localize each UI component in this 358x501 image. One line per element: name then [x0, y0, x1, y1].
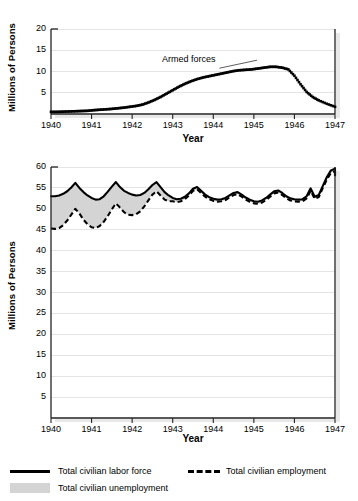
x-axis-label-bottom: Year — [143, 433, 243, 444]
y-tick-bottom-55: 55 — [20, 182, 46, 192]
x-axis-label-top: Year — [143, 133, 243, 144]
plot-area-labor-force — [0, 150, 358, 450]
x-tick-top-1940: 1940 — [32, 120, 70, 130]
legend-swatch-solid-line — [10, 470, 50, 473]
legend-item-labor-force: Total civilian labor force — [8, 464, 188, 479]
y-tick-top-20: 20 — [20, 23, 46, 33]
x-tick-top-1945: 1945 — [235, 120, 273, 130]
chart-armed-forces: Millions of Persons Armed forces Year 51… — [0, 0, 358, 150]
y-tick-bottom-45: 45 — [20, 224, 46, 234]
y-tick-bottom-25: 25 — [20, 307, 46, 317]
figure-root: Millions of Persons Armed forces Year 51… — [0, 0, 358, 501]
legend: Total civilian labor force Total civilia… — [8, 464, 356, 498]
x-tick-bottom-1947: 1947 — [316, 424, 354, 434]
legend-swatch-dashed-line — [188, 470, 220, 473]
legend-label-unemployment: Total civilian unemployment — [58, 483, 168, 493]
y-tick-bottom-50: 50 — [20, 203, 46, 213]
x-tick-bottom-1944: 1944 — [194, 424, 232, 434]
x-tick-bottom-1941: 1941 — [73, 424, 111, 434]
y-tick-top-5: 5 — [20, 87, 46, 97]
y-tick-bottom-5: 5 — [20, 391, 46, 401]
x-tick-bottom-1946: 1946 — [275, 424, 313, 434]
x-tick-bottom-1945: 1945 — [235, 424, 273, 434]
annotation-armed-forces: Armed forces — [162, 54, 216, 64]
chart-labor-force: Millions of Persons Year 510152025303540… — [0, 150, 358, 450]
x-tick-bottom-1943: 1943 — [154, 424, 192, 434]
x-tick-top-1944: 1944 — [194, 120, 232, 130]
legend-label-employment: Total civilian employment — [226, 466, 326, 476]
legend-swatch-filled-swatch — [10, 483, 50, 493]
y-tick-bottom-10: 10 — [20, 370, 46, 380]
y-tick-bottom-30: 30 — [20, 287, 46, 297]
y-tick-bottom-15: 15 — [20, 349, 46, 359]
y-axis-label-bottom: Millions of Persons — [6, 231, 17, 341]
y-tick-bottom-35: 35 — [20, 266, 46, 276]
x-tick-top-1946: 1946 — [275, 120, 313, 130]
x-tick-bottom-1940: 1940 — [32, 424, 70, 434]
y-axis-label-top: Millions of Persons — [6, 13, 17, 123]
y-tick-bottom-60: 60 — [20, 161, 46, 171]
x-tick-bottom-1942: 1942 — [113, 424, 151, 434]
legend-item-employment: Total civilian employment — [188, 464, 356, 479]
x-tick-top-1942: 1942 — [113, 120, 151, 130]
x-tick-top-1947: 1947 — [316, 120, 354, 130]
y-tick-top-10: 10 — [20, 66, 46, 76]
legend-label-labor-force: Total civilian labor force — [58, 466, 152, 476]
y-tick-top-15: 15 — [20, 44, 46, 54]
x-tick-top-1943: 1943 — [154, 120, 192, 130]
legend-item-unemployment: Total civilian unemployment — [8, 481, 248, 496]
x-tick-top-1941: 1941 — [73, 120, 111, 130]
y-tick-bottom-40: 40 — [20, 245, 46, 255]
y-tick-bottom-20: 20 — [20, 328, 46, 338]
